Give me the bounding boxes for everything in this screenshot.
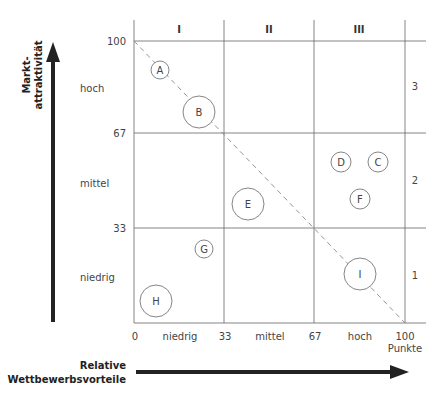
svg-text:Relative: Relative (80, 360, 126, 371)
svg-text:33: 33 (113, 223, 126, 234)
column-header-3: III (353, 24, 364, 35)
svg-text:mittel: mittel (80, 178, 109, 189)
svg-text:Markt-: Markt- (21, 56, 32, 93)
svg-text:Wettbewerbsvorteile: Wettbewerbsvorteile (7, 374, 126, 385)
svg-text:F: F (357, 194, 363, 205)
svg-text:I: I (359, 269, 362, 280)
svg-text:3: 3 (412, 81, 418, 92)
x-axis-title: Relative Wettbewerbsvorteile (7, 360, 126, 385)
y-levels: hoch mittel niedrig (80, 83, 115, 283)
svg-text:mittel: mittel (255, 331, 284, 342)
bubble-d: D (331, 152, 351, 172)
bubble-e: E (232, 188, 264, 220)
svg-text:100: 100 (395, 331, 414, 342)
svg-text:67: 67 (113, 128, 126, 139)
svg-text:attraktivität: attraktivität (33, 40, 44, 109)
svg-text:B: B (196, 107, 203, 118)
column-headers: I II III (177, 24, 364, 35)
bubble-i: I (344, 258, 376, 290)
column-header-1: I (177, 24, 181, 35)
x-levels: niedrig mittel hoch (163, 331, 373, 342)
svg-text:E: E (245, 199, 251, 210)
svg-text:33: 33 (219, 331, 232, 342)
svg-text:H: H (152, 296, 160, 307)
bubble-c: C (368, 152, 388, 172)
column-header-2: II (265, 24, 272, 35)
svg-text:100: 100 (107, 36, 126, 47)
y-axis-title: Markt- attraktivität (21, 40, 44, 109)
portfolio-matrix: Markt- attraktivität I II III 3 2 1 100 … (0, 0, 441, 396)
bubble-f: F (350, 189, 370, 209)
svg-text:C: C (375, 157, 382, 168)
svg-text:0: 0 (132, 331, 138, 342)
svg-text:niedrig: niedrig (80, 272, 115, 283)
svg-text:D: D (337, 157, 345, 168)
bubble-h: H (140, 285, 172, 317)
svg-text:G: G (200, 244, 208, 255)
svg-text:hoch: hoch (348, 331, 372, 342)
svg-text:Punkte: Punkte (388, 343, 422, 354)
row-numbers: 3 2 1 (412, 81, 418, 281)
svg-text:2: 2 (412, 175, 418, 186)
y-ticks: 100 67 33 (107, 36, 126, 234)
x-axis-arrow (136, 365, 409, 379)
y-axis-arrow (46, 42, 60, 322)
bubble-b: B (183, 96, 215, 128)
bubbles: A B C D E F G H I (140, 61, 388, 317)
svg-text:67: 67 (309, 331, 322, 342)
svg-text:niedrig: niedrig (163, 331, 198, 342)
svg-text:A: A (157, 65, 164, 76)
bubble-a: A (151, 61, 169, 79)
bubble-g: G (195, 240, 213, 258)
svg-text:hoch: hoch (80, 83, 104, 94)
svg-text:1: 1 (412, 270, 418, 281)
